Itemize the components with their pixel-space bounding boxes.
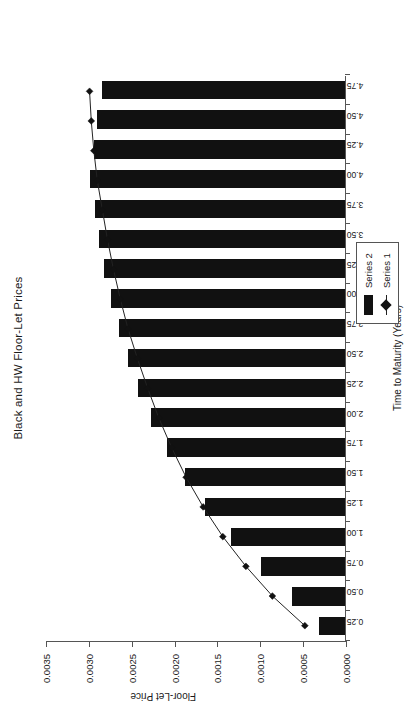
x-axis-tick-label: 1.50: [347, 468, 364, 478]
x-axis-tick-label: 3.50: [347, 230, 364, 240]
y-axis-tick: [132, 641, 133, 647]
x-axis-tick: [345, 74, 350, 75]
y-axis-label: Floor-Let Price: [130, 691, 196, 702]
x-axis-tick: [345, 253, 350, 254]
legend-label: Series 2: [363, 253, 374, 288]
y-axis-tick-label: 0.0000: [341, 654, 352, 683]
legend-label: Series 1: [381, 253, 392, 288]
data-point-marker: [117, 296, 124, 303]
plot-area: [46, 76, 346, 642]
x-axis-tick-label: 2.50: [347, 349, 364, 359]
x-axis-tick: [345, 551, 350, 552]
x-axis-tick-label: 0.50: [347, 587, 364, 597]
rotated-figure-wrapper: Black and HW Floor-Let Prices Floor-Let …: [0, 0, 416, 716]
x-axis-tick: [345, 580, 350, 581]
x-axis-tick: [345, 134, 350, 135]
x-axis-tick: [345, 312, 350, 313]
y-axis-tick: [346, 641, 347, 647]
x-axis-label: Time to Maturity (Years): [392, 0, 403, 716]
diamond-marker-icon: [382, 295, 391, 315]
x-axis-tick: [345, 193, 350, 194]
y-axis-tick-label: 0.0015: [212, 654, 223, 683]
line-series-group: [46, 76, 345, 641]
x-axis-tick-label: 3.75: [347, 200, 364, 210]
data-point-marker: [168, 444, 175, 451]
y-axis-tick-label: 0.0020: [169, 654, 180, 683]
data-point-marker: [183, 474, 190, 481]
x-axis-tick: [345, 431, 350, 432]
x-axis-tick-label: 4.75: [347, 81, 364, 91]
data-point-marker: [86, 88, 93, 95]
x-axis-tick: [345, 491, 350, 492]
x-axis-tick: [345, 402, 350, 403]
y-axis-tick: [46, 641, 47, 647]
x-axis-tick-label: 4.25: [347, 140, 364, 150]
bar-swatch-icon: [364, 295, 373, 315]
x-axis-tick: [345, 163, 350, 164]
data-point-marker: [90, 147, 97, 154]
x-axis-tick-label: 0.75: [347, 558, 364, 568]
chart-legend: Series 2 Series 1: [356, 242, 399, 324]
data-point-marker: [144, 385, 151, 392]
y-axis-tick: [260, 641, 261, 647]
data-point-marker: [88, 118, 95, 125]
legend-item-series-2: Series 2: [363, 253, 374, 315]
y-axis-tick-label: 0.0010: [255, 654, 266, 683]
x-axis-tick-label: 1.00: [347, 528, 364, 538]
data-point-marker: [94, 177, 101, 184]
data-point-marker: [200, 504, 207, 511]
x-axis-tick-label: 4.00: [347, 170, 364, 180]
x-axis-tick-label: 2.25: [347, 379, 364, 389]
data-point-marker: [125, 325, 132, 332]
data-point-marker: [155, 414, 162, 421]
x-axis-tick-label: 2.00: [347, 409, 364, 419]
x-axis-tick: [345, 342, 350, 343]
data-point-marker: [110, 266, 117, 273]
x-axis-tick-label: 1.25: [347, 498, 364, 508]
y-axis-tick-label: 0.0030: [83, 654, 94, 683]
y-axis-tick: [217, 641, 218, 647]
y-axis-tick-label: 0.0025: [126, 654, 137, 683]
data-point-marker: [99, 207, 106, 214]
data-point-marker: [134, 355, 141, 362]
x-axis-tick: [345, 521, 350, 522]
series-line: [90, 91, 305, 625]
y-axis-tick-label: 0.0035: [41, 654, 52, 683]
x-axis-tick: [345, 223, 350, 224]
chart-title: Black and HW Floor-Let Prices: [12, 0, 24, 716]
y-axis-tick: [303, 641, 304, 647]
x-axis-tick-label: 0.25: [347, 617, 364, 627]
x-axis-tick: [345, 610, 350, 611]
x-axis-tick: [345, 104, 350, 105]
x-axis-tick: [345, 640, 350, 641]
x-axis-tick-label: 1.75: [347, 438, 364, 448]
y-axis-tick: [89, 641, 90, 647]
y-axis-tick-label: 0.0005: [298, 654, 309, 683]
x-axis-tick: [345, 372, 350, 373]
legend-item-series-1: Series 1: [381, 253, 392, 315]
scanned-figure-page: Black and HW Floor-Let Prices Floor-Let …: [0, 0, 416, 716]
data-point-marker: [104, 236, 111, 243]
chart-canvas: Black and HW Floor-Let Prices Floor-Let …: [0, 0, 416, 716]
x-axis-tick-label: 4.50: [347, 111, 364, 121]
y-axis-tick: [175, 641, 176, 647]
x-axis-tick: [345, 283, 350, 284]
x-axis-tick: [345, 461, 350, 462]
